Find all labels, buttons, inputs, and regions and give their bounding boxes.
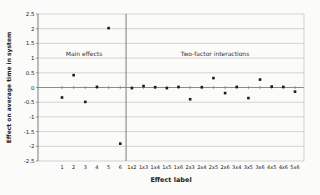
x-tick-label: 4x5 bbox=[267, 164, 276, 170]
y-tick-label: -1.5 bbox=[24, 129, 35, 135]
data-point bbox=[294, 90, 297, 93]
y-tick-label: 1.5 bbox=[26, 40, 35, 46]
data-point bbox=[270, 85, 273, 88]
data-point bbox=[247, 97, 250, 100]
x-tick-label: 2 bbox=[72, 164, 75, 170]
annotation-main-effects: Main effects bbox=[44, 50, 124, 57]
x-tick-label: 1x6 bbox=[174, 164, 183, 170]
data-point bbox=[189, 98, 192, 101]
plot-area: 2.521.510.50-0.5-1-1.5-2-2.51234561x21x3… bbox=[0, 0, 320, 195]
y-tick-label: -2.5 bbox=[24, 158, 35, 164]
data-point bbox=[201, 86, 204, 89]
x-tick-label: 3x4 bbox=[232, 164, 241, 170]
data-point bbox=[282, 86, 285, 89]
data-point bbox=[84, 101, 87, 104]
y-tick-label: 0 bbox=[31, 85, 35, 91]
x-tick-label: 1x3 bbox=[139, 164, 148, 170]
y-tick-label: 2.5 bbox=[26, 11, 35, 17]
x-tick-label: 2x4 bbox=[197, 164, 206, 170]
x-tick-label: 2x6 bbox=[220, 164, 229, 170]
x-tick-label: 1x2 bbox=[127, 164, 136, 170]
data-point bbox=[235, 86, 238, 89]
data-point bbox=[224, 92, 227, 95]
data-point bbox=[166, 87, 169, 90]
data-point bbox=[72, 74, 75, 77]
y-tick-label: 1 bbox=[31, 55, 35, 61]
y-tick-label: -1 bbox=[29, 114, 34, 120]
y-axis-title: Effect on average time in system bbox=[5, 23, 12, 153]
data-point bbox=[107, 27, 110, 30]
data-point bbox=[131, 87, 134, 90]
data-point bbox=[177, 86, 180, 89]
data-point bbox=[142, 85, 145, 88]
x-tick-label: 1x5 bbox=[162, 164, 171, 170]
data-point bbox=[212, 77, 215, 80]
x-tick-label: 1x4 bbox=[151, 164, 160, 170]
x-tick-label: 6 bbox=[119, 164, 122, 170]
x-tick-label: 5x6 bbox=[290, 164, 299, 170]
x-tick-label: 5 bbox=[107, 164, 110, 170]
y-tick-label: 0.5 bbox=[26, 70, 35, 76]
x-tick-label: 4 bbox=[95, 164, 98, 170]
y-tick-label: 2 bbox=[31, 26, 35, 32]
x-tick-label: 3x5 bbox=[244, 164, 253, 170]
x-tick-label: 3x6 bbox=[255, 164, 264, 170]
x-tick-label: 4x6 bbox=[279, 164, 288, 170]
data-point bbox=[154, 86, 157, 89]
effects-chart-figure: 2.521.510.50-0.5-1-1.5-2-2.51234561x21x3… bbox=[0, 0, 320, 195]
y-tick-label: -2 bbox=[29, 143, 34, 149]
x-tick-label: 3 bbox=[84, 164, 87, 170]
annotation-two-factor-interactions: Two-factor interactions bbox=[150, 50, 280, 57]
x-tick-label: 2x5 bbox=[209, 164, 218, 170]
x-tick-label: 2x3 bbox=[185, 164, 194, 170]
data-point bbox=[119, 142, 122, 145]
x-axis-title: Effect label bbox=[38, 176, 304, 184]
x-tick-label: 1 bbox=[60, 164, 63, 170]
data-point bbox=[259, 78, 262, 81]
data-point bbox=[61, 96, 64, 99]
y-tick-label: -0.5 bbox=[24, 99, 35, 105]
data-point bbox=[96, 86, 99, 89]
